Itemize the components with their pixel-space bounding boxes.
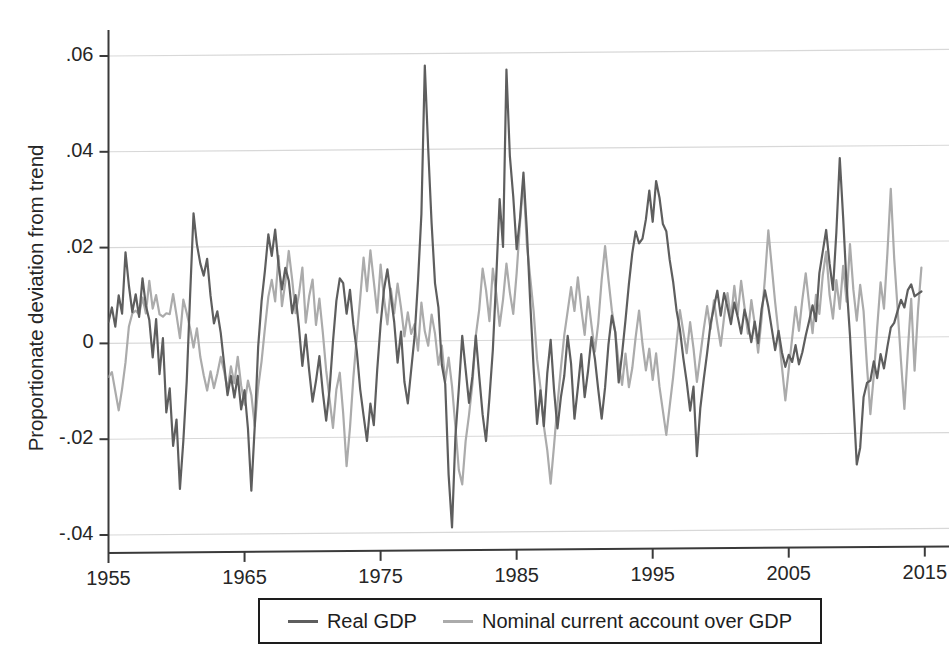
legend-swatch-current-account [443, 620, 473, 623]
legend-label-current-account: Nominal current account over GDP [482, 610, 792, 633]
legend: Real GDP Nominal current account over GD… [258, 598, 822, 644]
y-tick-label: .06 [66, 43, 94, 66]
x-tick-label: 1995 [613, 563, 693, 586]
x-tick-label: 1985 [477, 564, 557, 587]
x-tick-label: 2015 [885, 561, 949, 584]
y-tick-label: .04 [66, 139, 94, 162]
data-series-layer [109, 65, 922, 527]
legend-entry-current-account: Nominal current account over GDP [430, 610, 805, 633]
x-tick-label: 1965 [205, 566, 285, 589]
plot-svg [0, 0, 949, 653]
legend-label-real-gdp: Real GDP [327, 610, 417, 633]
x-tick-label: 2005 [749, 562, 829, 585]
x-tick-label: 1955 [69, 567, 149, 590]
x-tick-label: 1975 [341, 565, 421, 588]
legend-entry-real-gdp: Real GDP [275, 610, 430, 633]
y-tick-label: -.02 [59, 426, 93, 449]
y-tick-label: -.04 [59, 522, 93, 545]
chart-container: Proportionate deviation from trend .06.0… [0, 0, 949, 653]
legend-swatch-real-gdp [288, 620, 318, 623]
y-tick-label: 0 [82, 330, 93, 353]
y-tick-label: .02 [66, 235, 94, 258]
